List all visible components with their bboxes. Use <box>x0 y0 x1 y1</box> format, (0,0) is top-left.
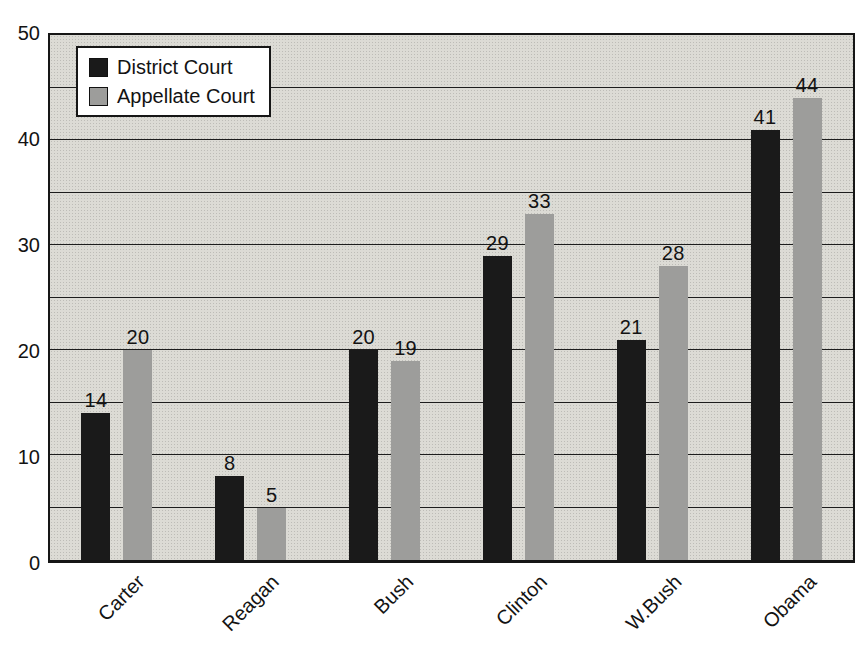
bar-group-obama: 4144 <box>719 35 853 560</box>
bar-column: 28 <box>659 35 688 560</box>
bar-value-label: 19 <box>394 338 417 358</box>
bar-value-label: 29 <box>486 233 509 253</box>
y-tick-label: 0 <box>0 553 40 573</box>
bar-value-label: 5 <box>266 485 277 505</box>
bar <box>349 350 378 560</box>
y-tick-label: 40 <box>0 129 40 149</box>
bar <box>793 98 822 560</box>
bar-value-label: 44 <box>796 75 819 95</box>
bar-column: 20 <box>349 35 378 560</box>
bar <box>257 508 286 561</box>
bar <box>617 340 646 561</box>
x-tick-label: Obama <box>759 571 820 632</box>
bar-column: 33 <box>525 35 554 560</box>
x-axis-labels: CarterReaganBushClintonW.BushObama <box>0 571 868 648</box>
legend-item-district-court: District Court <box>89 56 255 78</box>
bar <box>215 476 244 560</box>
bar <box>391 361 420 561</box>
x-tick-label: Carter <box>94 571 147 624</box>
bar <box>123 350 152 560</box>
y-tick-label: 20 <box>0 341 40 361</box>
district-court-swatch-icon <box>89 58 108 77</box>
bar <box>483 256 512 561</box>
bar-column: 21 <box>617 35 646 560</box>
y-tick-label: 10 <box>0 447 40 467</box>
bar-value-label: 20 <box>352 327 375 347</box>
bar-group-wbush: 2128 <box>585 35 719 560</box>
bar-value-label: 33 <box>528 191 551 211</box>
bar-column: 44 <box>793 35 822 560</box>
bar-chart: 01020304050 1420852019293321284144 Distr… <box>0 0 868 648</box>
bar-group-clinton: 2933 <box>451 35 585 560</box>
appellate-court-swatch-icon <box>89 87 108 106</box>
y-tick-label: 50 <box>0 23 40 43</box>
legend-label-appellate-court: Appellate Court <box>117 85 255 107</box>
bar-value-label: 21 <box>620 317 643 337</box>
y-axis-labels: 01020304050 <box>0 0 40 648</box>
x-tick-label: Clinton <box>493 571 551 629</box>
bar-column: 41 <box>751 35 780 560</box>
legend-label-district-court: District Court <box>117 56 233 78</box>
x-tick-label: Reagan <box>218 571 282 635</box>
bar-value-label: 8 <box>224 453 235 473</box>
x-tick-label: W.Bush <box>623 571 686 634</box>
bar-value-label: 20 <box>126 327 149 347</box>
y-tick-label: 30 <box>0 235 40 255</box>
legend-item-appellate-court: Appellate Court <box>89 85 255 107</box>
bar <box>525 214 554 561</box>
bar-value-label: 14 <box>84 390 107 410</box>
bar-group-bush: 2019 <box>318 35 452 560</box>
bar-column: 19 <box>391 35 420 560</box>
x-tick-label: Bush <box>370 571 416 617</box>
bar-value-label: 28 <box>662 243 685 263</box>
legend: District Court Appellate Court <box>76 46 271 117</box>
bar-value-label: 41 <box>754 107 777 127</box>
bar <box>751 130 780 561</box>
bar-column: 29 <box>483 35 512 560</box>
bar <box>81 413 110 560</box>
bar <box>659 266 688 560</box>
plot-area: 1420852019293321284144 District Court Ap… <box>48 33 855 563</box>
